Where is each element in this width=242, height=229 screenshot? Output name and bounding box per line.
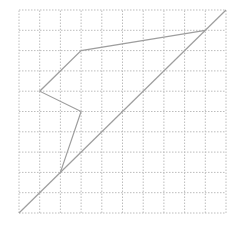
diagram-svg bbox=[0, 0, 242, 229]
grid-diagram bbox=[0, 0, 242, 229]
